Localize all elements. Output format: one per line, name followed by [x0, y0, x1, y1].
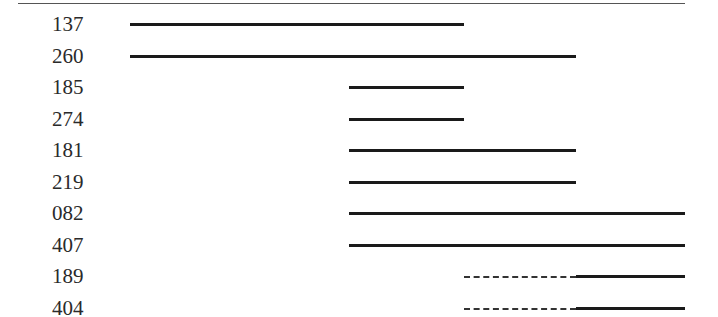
range-line [349, 118, 464, 121]
table-row: 137 [0, 9, 718, 40]
table-row: 181 [0, 135, 718, 166]
table-row: 189 [0, 261, 718, 292]
range-line [576, 307, 685, 310]
range-line [349, 149, 576, 152]
table-row: 260 [0, 41, 718, 72]
range-line [349, 212, 685, 215]
dashed-range-line [464, 276, 576, 278]
range-line [130, 23, 464, 26]
table-row: 082 [0, 198, 718, 229]
dashed-range-line [464, 308, 576, 310]
row-label: 219 [52, 167, 84, 198]
table-row: 274 [0, 104, 718, 135]
row-label: 189 [52, 261, 84, 292]
row-label: 274 [52, 104, 84, 135]
range-line [576, 275, 685, 278]
row-label: 404 [52, 293, 84, 317]
table-row: 404 [0, 293, 718, 317]
row-label: 260 [52, 41, 84, 72]
row-label: 185 [52, 72, 84, 103]
table-row: 407 [0, 230, 718, 261]
table-row: 185 [0, 72, 718, 103]
range-line [349, 181, 576, 184]
row-label: 407 [52, 230, 84, 261]
row-label: 082 [52, 198, 84, 229]
range-line [130, 55, 576, 58]
top-rule [18, 3, 685, 4]
range-line [349, 86, 464, 89]
range-line [349, 244, 685, 247]
row-label: 181 [52, 135, 84, 166]
table-row: 219 [0, 167, 718, 198]
row-label: 137 [52, 9, 84, 40]
